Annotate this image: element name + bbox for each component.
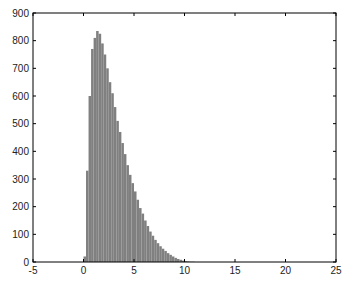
histogram-bar <box>157 243 160 262</box>
y-axis: 0100200300400500600700800900 <box>12 8 336 268</box>
y-tick-label: 0 <box>23 257 29 268</box>
histogram-bar <box>159 246 162 262</box>
histogram-bar <box>89 96 92 262</box>
histogram-bar <box>149 232 152 262</box>
y-tick-label: 200 <box>12 201 29 212</box>
x-tick-label: 20 <box>280 265 292 276</box>
x-tick-label: 25 <box>330 265 342 276</box>
histogram-bar <box>139 208 142 262</box>
histogram-bar <box>126 165 129 262</box>
histogram-bar <box>174 258 177 262</box>
histogram-bar <box>96 31 99 262</box>
histogram-bar <box>106 68 109 262</box>
histogram-bar <box>86 171 89 262</box>
histogram-bar <box>124 154 127 262</box>
x-tick-label: 15 <box>229 265 241 276</box>
histogram-chart: -50510152025 010020030040050060070080090… <box>0 0 353 287</box>
y-tick-label: 700 <box>12 63 29 74</box>
histogram-bar <box>111 93 114 262</box>
histogram-bar <box>154 240 157 262</box>
y-tick-label: 800 <box>12 35 29 46</box>
x-tick-label: 10 <box>179 265 191 276</box>
histogram-bar <box>144 221 147 263</box>
histogram-bar <box>101 43 104 262</box>
histogram-bar <box>162 249 165 262</box>
histogram-bar <box>147 226 150 262</box>
histogram-bar <box>169 255 172 262</box>
y-tick-label: 400 <box>12 146 29 157</box>
histogram-bar <box>134 191 137 262</box>
histogram-bar <box>114 107 117 262</box>
plot-area-frame <box>33 13 336 262</box>
x-tick-label: -5 <box>29 265 38 276</box>
histogram-bar <box>131 183 134 262</box>
histogram-bar <box>94 38 97 262</box>
y-tick-label: 500 <box>12 118 29 129</box>
histogram-bar <box>172 256 175 262</box>
histogram-bar <box>119 132 122 262</box>
histogram-bar <box>116 121 119 262</box>
histogram-bar <box>152 236 155 262</box>
y-tick-label: 100 <box>12 229 29 240</box>
x-axis: -50510152025 <box>29 13 342 276</box>
histogram-bar <box>164 251 167 262</box>
histogram-bar <box>99 34 102 262</box>
x-tick-label: 5 <box>131 265 137 276</box>
histogram-bar <box>142 214 145 262</box>
y-tick-label: 600 <box>12 91 29 102</box>
histogram-bars <box>84 31 195 262</box>
histogram-bar <box>129 175 132 262</box>
x-tick-label: 0 <box>81 265 87 276</box>
histogram-bar <box>104 55 107 263</box>
histogram-bar <box>137 200 140 262</box>
histogram-bar <box>109 82 112 262</box>
histogram-bar <box>121 143 124 262</box>
histogram-bar <box>91 49 94 262</box>
y-tick-label: 900 <box>12 8 29 19</box>
histogram-bar <box>167 253 170 262</box>
y-tick-label: 300 <box>12 174 29 185</box>
